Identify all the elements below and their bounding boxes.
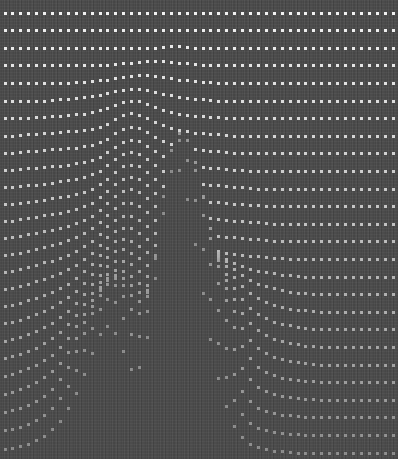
data-point-marker	[162, 170, 165, 173]
data-point-marker	[178, 62, 181, 65]
data-point-marker	[202, 195, 205, 198]
data-point-marker	[249, 443, 252, 446]
data-point-marker	[312, 258, 315, 261]
data-point-marker	[289, 29, 292, 32]
ridge-trace	[4, 258, 395, 349]
data-point-marker	[67, 179, 70, 182]
data-point-marker	[392, 47, 395, 50]
data-point-marker	[225, 151, 228, 154]
data-point-marker	[35, 216, 38, 219]
data-point-marker	[91, 80, 94, 83]
data-point-marker	[170, 111, 173, 114]
data-point-marker	[178, 79, 181, 82]
data-point-marker	[273, 257, 276, 260]
data-point-marker	[241, 265, 244, 268]
data-point-marker	[297, 188, 300, 191]
data-point-marker	[43, 359, 46, 362]
data-point-marker	[114, 12, 117, 15]
data-point-marker	[297, 361, 300, 364]
data-point-marker	[154, 47, 157, 50]
data-point-marker	[265, 170, 268, 173]
data-point-marker	[384, 381, 387, 384]
data-point-marker	[297, 170, 300, 173]
data-point-marker	[249, 307, 252, 310]
data-point-marker	[368, 293, 371, 296]
data-point-marker	[217, 254, 220, 257]
data-point-marker	[146, 74, 149, 77]
data-point-marker	[281, 170, 284, 173]
data-point-marker	[194, 161, 197, 164]
data-point-marker	[392, 29, 395, 32]
ridge-trace	[4, 238, 395, 314]
data-point-marker	[122, 227, 125, 230]
data-point-marker	[146, 171, 149, 174]
data-point-marker	[257, 117, 260, 120]
data-point-marker	[51, 182, 54, 185]
data-point-marker	[106, 283, 109, 286]
data-point-marker	[43, 414, 46, 417]
data-point-marker	[233, 64, 236, 67]
data-point-marker	[202, 29, 205, 32]
data-point-marker	[352, 12, 355, 15]
data-point-marker	[304, 416, 307, 419]
ridge-trace	[4, 60, 395, 67]
data-point-marker	[27, 133, 30, 136]
data-point-marker	[249, 82, 252, 85]
data-point-marker	[320, 346, 323, 349]
data-point-marker	[233, 100, 236, 103]
data-point-marker	[376, 152, 379, 155]
data-point-marker	[328, 188, 331, 191]
data-point-marker	[67, 47, 70, 50]
data-point-marker	[249, 322, 252, 325]
data-point-marker	[257, 427, 260, 430]
data-point-marker	[51, 229, 54, 232]
data-point-marker	[51, 82, 54, 85]
data-point-marker	[19, 445, 22, 448]
data-point-marker	[35, 184, 38, 187]
data-point-marker	[91, 159, 94, 162]
data-point-marker	[4, 29, 7, 32]
data-point-marker	[75, 302, 78, 305]
data-point-marker	[289, 308, 292, 311]
data-point-marker	[67, 82, 70, 85]
data-point-marker	[281, 432, 284, 435]
data-point-marker	[170, 143, 173, 146]
data-point-marker	[257, 82, 260, 85]
data-point-marker	[304, 327, 307, 330]
data-point-marker	[11, 373, 14, 376]
data-point-marker	[360, 117, 363, 120]
data-point-marker	[233, 268, 236, 271]
data-point-marker	[138, 61, 141, 64]
data-point-marker	[368, 170, 371, 173]
data-point-marker	[241, 390, 244, 393]
data-point-marker	[106, 29, 109, 32]
data-point-marker	[392, 399, 395, 402]
data-point-marker	[146, 158, 149, 161]
data-point-marker	[83, 282, 86, 285]
data-point-marker	[304, 362, 307, 365]
data-point-marker	[360, 416, 363, 419]
data-point-marker	[328, 47, 331, 50]
data-point-marker	[376, 399, 379, 402]
data-point-marker	[376, 346, 379, 349]
data-point-marker	[352, 29, 355, 32]
data-point-marker	[376, 47, 379, 50]
data-point-marker	[336, 223, 339, 226]
data-point-marker	[320, 12, 323, 15]
data-point-marker	[162, 76, 165, 79]
data-point-marker	[336, 276, 339, 279]
data-point-marker	[83, 205, 86, 208]
data-point-marker	[273, 152, 276, 155]
data-point-marker	[336, 434, 339, 437]
data-point-marker	[130, 368, 133, 371]
data-point-marker	[368, 240, 371, 243]
data-point-marker	[249, 221, 252, 224]
data-point-marker	[75, 222, 78, 225]
data-point-marker	[130, 12, 133, 15]
data-point-marker	[289, 205, 292, 208]
data-point-marker	[233, 152, 236, 155]
data-point-marker	[11, 338, 14, 341]
data-point-marker	[233, 29, 236, 32]
ridge-trace	[4, 151, 395, 190]
data-point-marker	[59, 301, 62, 304]
